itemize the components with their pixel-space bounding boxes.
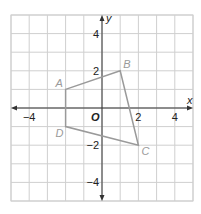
- coordinate-plane: xyO −42442−2−4 ABCD: [0, 0, 201, 214]
- y-tick-label: 4: [93, 28, 99, 40]
- vertex-label-b: B: [123, 58, 130, 70]
- y-tick-label: −4: [86, 176, 99, 188]
- y-tick-label: −2: [86, 139, 99, 151]
- x-tick-label: 2: [135, 111, 141, 123]
- x-tick-label: −4: [23, 111, 36, 123]
- x-axis-label: x: [186, 94, 193, 106]
- x-tick-label: 4: [172, 111, 178, 123]
- origin-label: O: [91, 111, 100, 123]
- vertex-label-d: D: [56, 127, 64, 139]
- vertex-label-a: A: [55, 77, 63, 89]
- vertex-label-c: C: [141, 145, 149, 157]
- y-tick-label: 2: [93, 65, 99, 77]
